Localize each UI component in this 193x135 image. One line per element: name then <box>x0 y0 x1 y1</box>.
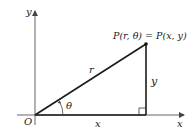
y-axis-label: y <box>25 6 32 17</box>
origin-label: O <box>24 116 32 127</box>
r-label: r <box>89 64 95 75</box>
x-axis-label: x <box>177 118 183 129</box>
point-p <box>144 42 148 46</box>
y-leg-label: y <box>150 75 158 88</box>
polar-coordinates-diagram: y x O P(r, θ) = P(x, y) r y x θ <box>0 0 193 135</box>
right-angle-marker <box>139 108 146 115</box>
point-label: P(r, θ) = P(x, y) <box>112 30 187 41</box>
x-leg-label: x <box>95 118 101 129</box>
angle-arc <box>60 102 64 116</box>
hypotenuse-r <box>35 44 146 115</box>
theta-label: θ <box>66 100 72 111</box>
